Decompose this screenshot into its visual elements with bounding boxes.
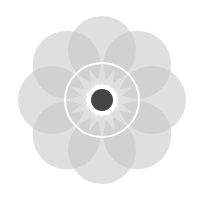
flower-icon — [0, 0, 200, 202]
flower-graphic — [0, 0, 200, 202]
center-dot — [91, 89, 113, 111]
